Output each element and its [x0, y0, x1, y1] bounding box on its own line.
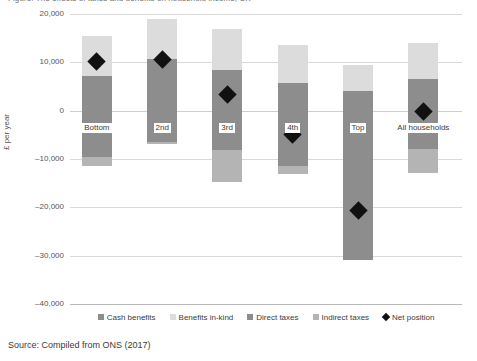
- bar-group[interactable]: [408, 14, 438, 304]
- y-axis-tick-label: –10,000: [4, 155, 64, 163]
- source-note: Source: Compiled from ONS (2017): [8, 340, 151, 350]
- y-axis-tick-label: –30,000: [4, 252, 64, 260]
- legend-item[interactable]: Indirect taxes: [313, 313, 370, 322]
- legend-label: Benefits in-kind: [179, 313, 234, 322]
- plot-area: 20,00010,0000–10,000–20,000–30,000–40,00…: [70, 14, 462, 304]
- chart-figure: Figure: The effects of taxes and benefit…: [0, 0, 477, 361]
- bar-segment[interactable]: [82, 76, 112, 117]
- legend-label: Net position: [392, 313, 434, 322]
- legend-item[interactable]: Direct taxes: [247, 313, 298, 322]
- gridline--30000: [70, 256, 462, 257]
- gridline-10000: [70, 62, 462, 63]
- bar-segment[interactable]: [147, 59, 177, 130]
- legend-item[interactable]: Net position: [383, 313, 434, 322]
- legend-swatch-icon: [247, 314, 253, 320]
- bar-segment[interactable]: [278, 166, 308, 173]
- x-axis-category-label: 3rd: [219, 123, 235, 133]
- y-axis-title: £ per year: [2, 114, 11, 150]
- bar-segment[interactable]: [343, 65, 373, 92]
- legend-label: Indirect taxes: [322, 313, 370, 322]
- gridline-20000: [70, 14, 462, 15]
- y-axis-tick-label: 10,000: [4, 58, 64, 66]
- legend-label: Direct taxes: [256, 313, 298, 322]
- x-axis-category-label: All households: [395, 123, 451, 133]
- x-axis-category-label: Bottom: [82, 123, 111, 133]
- x-axis-category-label: 2nd: [154, 123, 171, 133]
- bar-group[interactable]: [343, 14, 373, 304]
- x-axis-category-label: Top: [350, 123, 367, 133]
- gridline--10000: [70, 159, 462, 160]
- gridline--20000: [70, 207, 462, 208]
- bar-group[interactable]: [147, 14, 177, 304]
- legend-swatch-icon: [170, 314, 176, 320]
- y-axis-tick-label: 0: [4, 107, 64, 115]
- y-axis-tick-label: 20,000: [4, 10, 64, 18]
- bar-segment[interactable]: [82, 157, 112, 167]
- gridline--40000: [70, 304, 462, 305]
- legend-diamond-icon: [382, 313, 390, 321]
- bar-group[interactable]: [82, 14, 112, 304]
- bar-segment[interactable]: [147, 142, 177, 144]
- legend-item[interactable]: Benefits in-kind: [170, 313, 234, 322]
- bar-segment[interactable]: [408, 43, 438, 79]
- bar-segment[interactable]: [212, 150, 242, 182]
- legend-label: Cash benefits: [107, 313, 156, 322]
- bar-group[interactable]: [212, 14, 242, 304]
- chart-legend: Cash benefitsBenefits in-kindDirect taxe…: [70, 310, 462, 324]
- legend-swatch-icon: [313, 314, 319, 320]
- legend-swatch-icon: [98, 314, 104, 320]
- bar-segment[interactable]: [278, 45, 308, 82]
- gridline-0: [70, 111, 462, 112]
- y-axis-tick-label: –40,000: [4, 300, 64, 308]
- bar-group[interactable]: [278, 14, 308, 304]
- figure-title: Figure: The effects of taxes and benefit…: [8, 0, 408, 6]
- bar-segment[interactable]: [408, 149, 438, 173]
- legend-item[interactable]: Cash benefits: [98, 313, 156, 322]
- y-axis-tick-label: –20,000: [4, 203, 64, 211]
- bar-segment[interactable]: [343, 91, 373, 102]
- x-axis-category-label: 4th: [285, 123, 300, 133]
- bar-segment[interactable]: [278, 83, 308, 114]
- bar-segment[interactable]: [212, 29, 242, 70]
